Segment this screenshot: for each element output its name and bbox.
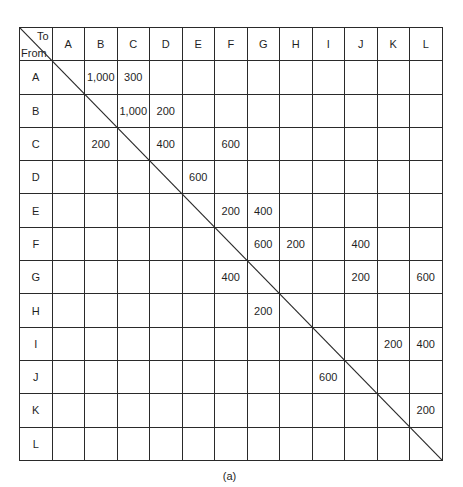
matrix-cell: [150, 327, 183, 360]
matrix-cell: 600: [215, 127, 248, 160]
matrix-cell: [410, 227, 443, 260]
caption-text: (a): [223, 470, 236, 482]
matrix-cell: [150, 427, 183, 460]
matrix-cell: [117, 327, 150, 360]
from-to-matrix: To From A B C D E F G H I J K L A1,00030…: [19, 27, 442, 460]
column-header-g: G: [247, 28, 280, 61]
matrix-cell: [85, 161, 118, 194]
matrix-cell: [85, 360, 118, 393]
from-to-table: To From A B C D E F G H I J K L A1,00030…: [19, 27, 443, 461]
table-row: K200: [20, 394, 443, 427]
table-row: F600200400: [20, 227, 443, 260]
row-header-j: J: [20, 360, 53, 393]
table-row: J600: [20, 360, 443, 393]
table-row: G400200600: [20, 261, 443, 294]
matrix-cell: [215, 161, 248, 194]
row-header-l: L: [20, 427, 53, 460]
row-header-h: H: [20, 294, 53, 327]
matrix-cell: [215, 227, 248, 260]
matrix-cell: [52, 261, 85, 294]
matrix-cell: [280, 127, 313, 160]
matrix-cell: [182, 427, 215, 460]
matrix-cell: 200: [215, 194, 248, 227]
column-header-a: A: [52, 28, 85, 61]
column-header-d: D: [150, 28, 183, 61]
matrix-cell: [85, 394, 118, 427]
matrix-cell: [312, 394, 345, 427]
matrix-cell: [345, 427, 378, 460]
matrix-cell: 400: [215, 261, 248, 294]
column-header-j: J: [345, 28, 378, 61]
matrix-cell: [182, 261, 215, 294]
matrix-cell: [410, 194, 443, 227]
header-row: To From A B C D E F G H I J K L: [20, 28, 443, 61]
matrix-cell: [410, 294, 443, 327]
matrix-cell: 200: [410, 394, 443, 427]
matrix-cell: [247, 360, 280, 393]
matrix-cell: [280, 327, 313, 360]
matrix-cell: [312, 94, 345, 127]
matrix-cell: [52, 94, 85, 127]
matrix-cell: [345, 161, 378, 194]
row-header-k: K: [20, 394, 53, 427]
matrix-cell: [377, 394, 410, 427]
matrix-cell: [377, 161, 410, 194]
from-label: From: [21, 47, 47, 59]
matrix-cell: [312, 261, 345, 294]
matrix-cell: [312, 294, 345, 327]
matrix-cell: [280, 94, 313, 127]
matrix-cell: 200: [280, 227, 313, 260]
matrix-cell: [215, 394, 248, 427]
matrix-cell: [85, 194, 118, 227]
matrix-cell: [377, 427, 410, 460]
matrix-cell: [345, 327, 378, 360]
table-row: H200: [20, 294, 443, 327]
matrix-cell: 600: [247, 227, 280, 260]
matrix-cell: [247, 394, 280, 427]
matrix-cell: [377, 127, 410, 160]
row-header-e: E: [20, 194, 53, 227]
column-header-f: F: [215, 28, 248, 61]
matrix-cell: [377, 360, 410, 393]
matrix-cell: 200: [377, 327, 410, 360]
matrix-cell: [182, 194, 215, 227]
column-header-k: K: [377, 28, 410, 61]
matrix-cell: [345, 61, 378, 94]
matrix-cell: [345, 360, 378, 393]
matrix-cell: 1,000: [85, 61, 118, 94]
matrix-cell: [345, 394, 378, 427]
matrix-cell: [150, 227, 183, 260]
matrix-cell: 200: [247, 294, 280, 327]
matrix-cell: [52, 194, 85, 227]
matrix-cell: [247, 261, 280, 294]
matrix-cell: [150, 161, 183, 194]
matrix-cell: [52, 327, 85, 360]
matrix-cell: [345, 94, 378, 127]
matrix-cell: [52, 427, 85, 460]
matrix-cell: [150, 294, 183, 327]
column-header-i: I: [312, 28, 345, 61]
matrix-cell: [150, 61, 183, 94]
matrix-cell: [247, 161, 280, 194]
matrix-cell: [117, 161, 150, 194]
matrix-cell: 200: [345, 261, 378, 294]
matrix-cell: [215, 327, 248, 360]
matrix-cell: [280, 261, 313, 294]
matrix-cell: [280, 61, 313, 94]
matrix-cell: 400: [345, 227, 378, 260]
matrix-cell: 400: [150, 127, 183, 160]
matrix-cell: [52, 360, 85, 393]
table-row: C200400600: [20, 127, 443, 160]
table-row: B1,000200: [20, 94, 443, 127]
matrix-cell: [150, 394, 183, 427]
matrix-cell: [410, 360, 443, 393]
matrix-cell: [312, 61, 345, 94]
matrix-cell: [150, 360, 183, 393]
matrix-cell: [410, 127, 443, 160]
matrix-cell: [247, 327, 280, 360]
matrix-cell: [410, 94, 443, 127]
matrix-cell: [117, 127, 150, 160]
row-header-c: C: [20, 127, 53, 160]
matrix-cell: 600: [182, 161, 215, 194]
matrix-cell: [312, 427, 345, 460]
